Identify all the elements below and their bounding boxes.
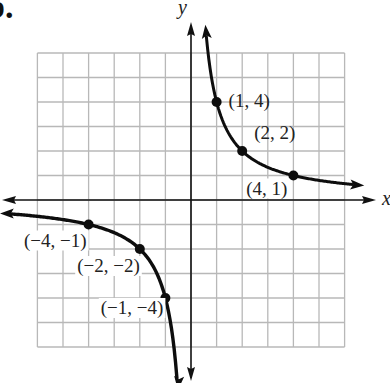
data-point-marker <box>135 244 145 254</box>
data-point-label: (−2, −2) <box>77 255 140 277</box>
curve-arrow-down-icon <box>173 376 184 383</box>
y-axis-label: y <box>176 0 187 19</box>
part-label: b. <box>0 0 13 26</box>
data-point-label: (2, 2) <box>254 122 295 144</box>
data-point-marker <box>288 171 298 181</box>
data-point-label: (−4, −1) <box>24 230 87 252</box>
data-point-marker <box>237 146 247 156</box>
hyperbola-plot: x y (1, 4)(2, 2)(4, 1)(−4, −1)(−2, −2)(−… <box>0 0 390 383</box>
graph-figure: b. x y (1, 4)(2, 2)(4, 1)(−4, −1)(−2, −2… <box>0 0 390 383</box>
data-point-marker <box>84 220 94 230</box>
data-point-marker <box>212 97 222 107</box>
x-axis-label: x <box>381 187 390 209</box>
y-axis-arrow-up-icon <box>187 22 195 36</box>
x-axis-arrow-left-icon <box>2 196 16 204</box>
y-axis-arrow-down-icon <box>187 367 195 381</box>
data-point-label: (4, 1) <box>246 178 287 200</box>
x-axis-arrow-right-icon <box>362 196 376 204</box>
data-point-label: (1, 4) <box>229 90 270 112</box>
axes: x y <box>2 0 390 381</box>
data-point-label: (−1, −4) <box>101 297 164 319</box>
